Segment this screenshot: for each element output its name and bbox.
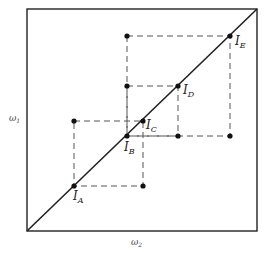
dot-ib (124, 133, 129, 138)
label-ia: IA (72, 189, 84, 205)
dot (140, 183, 145, 188)
dot-ic (140, 118, 145, 123)
label-ib: IB (123, 140, 135, 156)
diagram-canvas: IA IB IC ID IE ω1 ω2 (0, 0, 272, 258)
dot-ie (227, 33, 232, 38)
dot (175, 133, 180, 138)
label-ie: IE (234, 34, 246, 50)
dot-id (175, 83, 180, 88)
label-ic: IC (145, 118, 157, 134)
dot-ia (71, 183, 76, 188)
label-id: ID (182, 83, 195, 99)
dot (124, 33, 129, 38)
dot (124, 83, 129, 88)
dot (71, 118, 76, 123)
y-axis-label: ω1 (9, 113, 20, 124)
dot (227, 133, 232, 138)
x-axis-label: ω2 (131, 237, 142, 248)
